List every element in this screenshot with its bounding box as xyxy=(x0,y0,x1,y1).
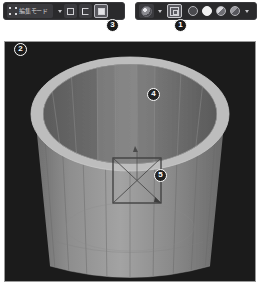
face-select-button[interactable] xyxy=(94,4,108,18)
callout-4: 4 xyxy=(147,88,160,101)
blender-window: 編集モード xyxy=(0,0,260,286)
vertex-select-icon xyxy=(67,8,74,15)
edge-select-button[interactable] xyxy=(79,4,92,18)
edit-mode-icon xyxy=(9,7,17,15)
callout-3: 3 xyxy=(106,19,119,32)
chevron-down-icon[interactable] xyxy=(245,10,249,13)
3d-viewport[interactable] xyxy=(4,41,256,282)
callout-2: 2 xyxy=(14,43,27,56)
shading-rendered-button[interactable] xyxy=(229,4,241,18)
callout-5: 5 xyxy=(154,169,167,182)
gizmo-sphere-icon xyxy=(141,6,152,17)
shading-solid-button[interactable] xyxy=(201,4,213,18)
wireframe-sphere-icon xyxy=(188,6,198,16)
chevron-down-icon[interactable] xyxy=(158,10,162,13)
xray-toggle-button[interactable] xyxy=(167,4,182,18)
header-left-toolbar: 編集モード xyxy=(3,2,125,20)
toggle-xray-icon xyxy=(170,7,179,16)
vertex-select-button[interactable] xyxy=(64,4,77,18)
solid-sphere-icon xyxy=(202,6,212,16)
edge-select-icon xyxy=(82,8,89,15)
rendered-sphere-icon xyxy=(230,6,240,16)
chevron-down-icon[interactable] xyxy=(58,10,62,13)
transform-orientation-button[interactable] xyxy=(139,4,154,18)
shading-wireframe-button[interactable] xyxy=(187,4,199,18)
mode-label: 編集モード xyxy=(19,4,48,18)
material-sphere-icon xyxy=(216,6,226,16)
callout-1: 1 xyxy=(174,19,187,32)
viewport-canvas xyxy=(5,42,255,281)
mode-selector[interactable]: 編集モード xyxy=(7,4,53,18)
shading-material-button[interactable] xyxy=(215,4,227,18)
header-right-toolbar xyxy=(135,2,257,20)
face-select-icon xyxy=(98,8,105,15)
